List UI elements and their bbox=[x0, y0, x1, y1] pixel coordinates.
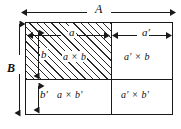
horizontal-divider bbox=[25, 79, 173, 80]
area-decomposition-figure: A B a bbox=[0, 0, 181, 129]
cell-label-bottom-right: a′ × b′ bbox=[121, 89, 149, 100]
height-B-arrow bbox=[14, 22, 25, 115]
cell-label-top-left: a × b bbox=[62, 51, 87, 62]
dimension-label-a-text: a bbox=[68, 26, 76, 38]
dimension-label-b: b bbox=[40, 48, 48, 60]
cell-label-bottom-left: a × b′ bbox=[57, 89, 83, 100]
dimension-label-A: A bbox=[95, 2, 102, 17]
dimension-label-b-prime: b′ bbox=[40, 88, 48, 100]
dimension-label-a: a bbox=[68, 26, 76, 38]
dimension-label-b-text: b bbox=[40, 48, 48, 60]
vertical-divider bbox=[111, 22, 112, 115]
dimension-label-a-prime: a′ bbox=[142, 26, 150, 38]
dimension-label-B: B bbox=[7, 61, 15, 76]
cell-label-top-right: a′ × b bbox=[124, 51, 150, 62]
cell-label-top-left-text: a × b bbox=[62, 51, 87, 62]
